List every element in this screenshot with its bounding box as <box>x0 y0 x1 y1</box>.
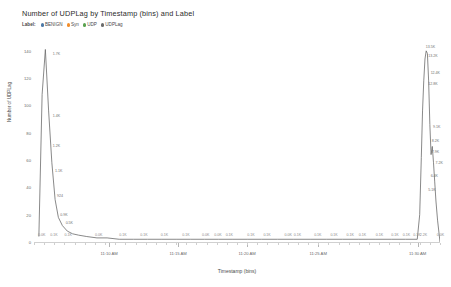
axis-value-label: 0.1K <box>391 233 398 237</box>
x-axis-minor-tick <box>176 243 177 245</box>
x-axis-tick-mark <box>178 243 179 247</box>
x-axis-minor-tick <box>247 243 248 245</box>
axis-value-label: 0.1K <box>64 233 71 237</box>
axis-value-label: 0.1K <box>347 233 354 237</box>
x-axis-minor-tick <box>95 243 96 245</box>
y-axis-tick-label: 60 <box>26 158 31 163</box>
data-point-label: 924 <box>57 194 63 198</box>
x-axis-minor-tick <box>410 243 411 245</box>
data-point-label: 12.8K <box>428 82 437 86</box>
x-axis-minor-tick <box>207 243 208 245</box>
x-axis-minor-tick <box>54 243 55 245</box>
data-point-label: 7.2K <box>436 161 443 165</box>
data-point-label: 12.4K <box>431 71 440 75</box>
axis-value-label: 0.1K <box>50 233 57 237</box>
y-axis-tick-label: 0 <box>29 240 31 245</box>
x-axis-minor-tick <box>196 243 197 245</box>
x-axis-minor-tick <box>369 243 370 245</box>
axis-value-label: 0.0K <box>437 233 444 237</box>
legend-swatch-icon <box>101 23 104 26</box>
legend-item-label: UDPLag <box>105 22 122 28</box>
x-axis-minor-tick <box>288 243 289 245</box>
data-point-label: 8.2K <box>432 139 439 143</box>
axis-value-label: 0.1K <box>226 233 233 237</box>
y-axis-title: Number of UDPLag <box>7 82 12 122</box>
x-axis-minor-tick <box>399 243 400 245</box>
x-axis-minor-tick <box>64 243 65 245</box>
x-axis-minor-tick <box>125 243 126 245</box>
axis-value-label: 0.1K <box>359 233 366 237</box>
axis-value-label: 0.1K <box>263 233 270 237</box>
page-title: Number of UDPLag by Timestamp (bins) and… <box>22 9 194 18</box>
legend-item-udp[interactable]: UDP <box>83 22 97 28</box>
x-axis-tick-label: 11:30 AM <box>409 251 426 256</box>
legend-item-benign[interactable]: BENIGN <box>41 22 63 28</box>
legend-swatch-icon <box>83 23 86 26</box>
x-axis-minor-tick <box>379 243 380 245</box>
legend-swatch-icon <box>67 23 70 26</box>
x-axis-minor-tick <box>237 243 238 245</box>
x-axis-minor-tick <box>359 243 360 245</box>
x-axis-minor-tick <box>308 243 309 245</box>
axis-value-label: 2.2K <box>420 233 427 237</box>
line-series-svg <box>34 44 440 242</box>
data-point-label: 0.5K <box>66 221 73 225</box>
data-point-label: 1.4K <box>53 114 60 118</box>
axis-value-label: 0.0K <box>95 233 102 237</box>
axis-value-label: 0.1K <box>161 233 168 237</box>
x-axis-tick-label: 11:10 AM <box>100 251 117 256</box>
series-line-udplag <box>39 49 440 242</box>
x-axis-tick-mark <box>418 243 419 247</box>
x-axis-minor-tick <box>227 243 228 245</box>
x-axis-minor-tick <box>136 243 137 245</box>
x-axis-minor-tick <box>34 243 35 245</box>
x-axis-minor-tick <box>278 243 279 245</box>
x-axis-minor-tick <box>440 243 441 245</box>
x-axis-minor-tick <box>156 243 157 245</box>
x-axis-minor-tick <box>75 243 76 245</box>
legend-title: Label: <box>22 22 36 28</box>
legend-item-label: UDP <box>87 22 97 28</box>
y-axis-tick-label: 120 <box>24 76 31 81</box>
y-axis: 020406080100120140 <box>0 44 34 242</box>
data-point-label: 6.4K <box>431 174 438 178</box>
x-axis-minor-tick <box>166 243 167 245</box>
data-point-label: 13.2K <box>428 54 437 58</box>
axis-value-label: 0.0K <box>285 233 292 237</box>
axis-value-label: 0.0K <box>202 233 209 237</box>
data-point-label: 1.1K <box>55 169 62 173</box>
legend-item-syn[interactable]: Syn <box>67 22 79 28</box>
x-axis-minor-tick <box>298 243 299 245</box>
data-point-label: 1.2K <box>53 144 60 148</box>
x-axis-tick-mark <box>109 243 110 247</box>
data-point-label: 9.1K <box>433 125 440 129</box>
x-axis-minor-tick <box>328 243 329 245</box>
chart-legend: Label: BENIGNSynUDPUDPLag <box>22 22 123 28</box>
legend-item-label: Syn <box>71 22 79 28</box>
y-axis-tick-label: 40 <box>26 185 31 190</box>
x-axis-minor-tick <box>420 243 421 245</box>
axis-value-label: 0.0K <box>38 233 45 237</box>
x-axis-minor-tick <box>257 243 258 245</box>
axis-value-label: 0.1K <box>294 233 301 237</box>
x-axis-minor-tick <box>217 243 218 245</box>
x-axis-minor-tick <box>349 243 350 245</box>
legend-item-udplag[interactable]: UDPLag <box>101 22 123 28</box>
data-point-label: 1.7K <box>53 52 60 56</box>
x-axis-minor-tick <box>430 243 431 245</box>
y-axis-tick-label: 140 <box>24 48 31 53</box>
x-axis-minor-tick <box>85 243 86 245</box>
x-axis-minor-tick <box>146 243 147 245</box>
axis-value-label: 0.1K <box>140 233 147 237</box>
plot-area[interactable]: 1.7K1.4K1.2K1.1K9240.9K0.5K13.5K13.2K12.… <box>34 44 440 242</box>
data-point-label: 7.9K <box>432 150 439 154</box>
legend-item-label: BENIGN <box>45 22 63 28</box>
axis-value-label: 0.1K <box>247 233 254 237</box>
data-point-label: 0.9K <box>60 213 67 217</box>
x-axis-tick-label: 11:25 AM <box>309 251 326 256</box>
x-axis-minor-tick <box>105 243 106 245</box>
x-axis-minor-tick <box>318 243 319 245</box>
axis-value-label: 0.1K <box>403 233 410 237</box>
x-axis-minor-tick <box>115 243 116 245</box>
x-axis-minor-tick <box>339 243 340 245</box>
